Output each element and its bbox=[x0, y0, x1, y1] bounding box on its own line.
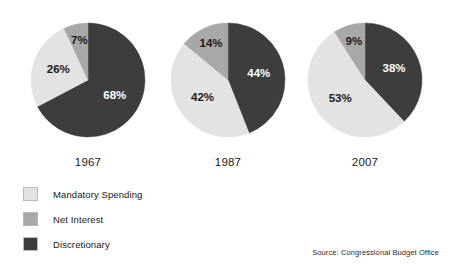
slice-value-label: 26% bbox=[47, 63, 70, 75]
legend-item-label: Mandatory Spending bbox=[53, 189, 142, 200]
pie-chart-1987: 44%42%14%1987 bbox=[158, 10, 298, 180]
pie-svg-1987: 44%42%14% bbox=[158, 10, 298, 150]
slice-value-label: 14% bbox=[199, 37, 222, 49]
slice-value-label: 68% bbox=[103, 89, 126, 101]
slice-value-label: 7% bbox=[71, 34, 88, 46]
legend-swatch-icon bbox=[23, 237, 38, 251]
slice-value-label: 9% bbox=[346, 35, 363, 47]
pie-svg-1967: 68%26%7% bbox=[18, 10, 158, 150]
legend-swatch-icon bbox=[23, 187, 38, 201]
legend-item: Discretionary bbox=[23, 234, 142, 254]
pie-chart-2007: 38%53%9%2007 bbox=[295, 10, 435, 180]
pie-charts-row: 68%26%7%196744%42%14%198738%53%9%2007 bbox=[0, 0, 451, 180]
legend-item: Net Interest bbox=[23, 209, 142, 229]
legend-item: Mandatory Spending bbox=[23, 184, 142, 204]
chart-legend: Mandatory SpendingNet InterestDiscretion… bbox=[23, 184, 142, 259]
slice-value-label: 38% bbox=[383, 62, 406, 74]
legend-item-label: Net Interest bbox=[53, 214, 103, 225]
legend-item-label: Discretionary bbox=[53, 239, 110, 250]
pie-year-label: 1967 bbox=[18, 156, 158, 168]
source-attribution: Source: Congressional Budget Office bbox=[312, 248, 439, 257]
budget-composition-pie-figure: 68%26%7%196744%42%14%198738%53%9%2007 Ma… bbox=[0, 0, 451, 266]
slice-value-label: 42% bbox=[191, 91, 214, 103]
pie-chart-1967: 68%26%7%1967 bbox=[18, 10, 158, 180]
slice-value-label: 53% bbox=[329, 92, 352, 104]
pie-year-label: 1987 bbox=[158, 156, 298, 168]
slice-value-label: 44% bbox=[247, 67, 270, 79]
pie-svg-2007: 38%53%9% bbox=[295, 10, 435, 150]
pie-year-label: 2007 bbox=[295, 156, 435, 168]
legend-swatch-icon bbox=[23, 212, 38, 226]
